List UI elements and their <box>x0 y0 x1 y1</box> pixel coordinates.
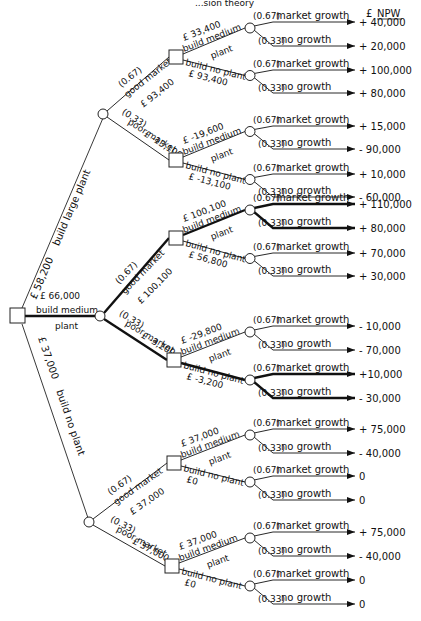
decision-node <box>169 153 183 167</box>
chance-node <box>245 205 255 215</box>
leaf-npw: + 80,000 <box>359 88 406 99</box>
leaf-npw: + 40,000 <box>359 17 406 28</box>
leaf-npw: + 15,000 <box>359 121 406 132</box>
leaf-npw: 0 <box>359 599 365 610</box>
edge-market-growth <box>254 253 355 257</box>
decision-node <box>167 456 181 470</box>
decision-node <box>169 231 183 245</box>
large-plant-label: build large plant <box>50 168 92 248</box>
edge-market-growth <box>254 22 355 26</box>
leaf-npw: + 30,000 <box>359 271 406 282</box>
chance-node-noplant <box>84 517 94 527</box>
leaf-label: market growth <box>276 362 349 373</box>
leaf-label: no growth <box>281 338 331 349</box>
leaf-npw: - 70,000 <box>359 345 401 356</box>
build-medium-label2: plant <box>209 146 234 164</box>
leaf-label: market growth <box>276 58 349 69</box>
build-medium-label2: plant <box>209 43 234 61</box>
chance-node <box>245 71 255 81</box>
edge-market-growth <box>254 532 355 536</box>
leaf-npw: + 110,000 <box>359 199 412 210</box>
edge-market-growth <box>254 374 355 378</box>
leaf-npw: + 75,000 <box>359 527 406 538</box>
edge-market-growth <box>254 70 355 74</box>
chance-node-large <box>98 109 108 119</box>
edge-market-growth <box>254 204 355 208</box>
leaf-label: market growth <box>276 568 349 579</box>
chance-node <box>245 327 255 337</box>
page-title-fragment: ...sion theory <box>195 0 255 8</box>
edge-market-growth <box>254 174 355 178</box>
leaf-label: market growth <box>276 520 349 531</box>
edge-market-growth <box>254 126 355 130</box>
edge-market-growth <box>254 429 355 433</box>
leaf-label: no growth <box>281 386 331 397</box>
chance-node-medium <box>95 311 105 321</box>
leaf-npw: +10,000 <box>359 369 402 380</box>
leaf-npw: + 100,000 <box>359 65 412 76</box>
chance-node <box>245 477 255 487</box>
edge-market-growth <box>254 476 355 480</box>
edge-no-plant <box>22 324 88 518</box>
root-decision-node <box>10 308 25 323</box>
chance-node <box>245 175 255 185</box>
build-medium-label2: plant <box>207 449 232 466</box>
no-plant-ev: £ 37,000 <box>36 335 61 381</box>
leaf-label: no growth <box>281 592 331 603</box>
leaf-npw: + 70,000 <box>359 248 406 259</box>
leaf-npw: - 90,000 <box>359 144 401 155</box>
leaf-label: no growth <box>281 488 331 499</box>
leaf-label: no growth <box>281 34 331 45</box>
edge-market-growth <box>254 326 355 330</box>
medium-plant-label1: build medium <box>36 305 98 315</box>
leaf-label: market growth <box>276 10 349 21</box>
medium-plant-ev: £ 66,000 <box>40 291 80 301</box>
chance-node <box>245 375 255 385</box>
leaf-npw: 0 <box>359 575 365 586</box>
chance-node <box>245 23 255 33</box>
leaf-label: no growth <box>281 264 331 275</box>
edge-market-growth <box>254 580 355 584</box>
build-medium-label2: plant <box>209 224 234 242</box>
leaf-label: market growth <box>276 464 349 475</box>
build-no-plant-ev: £0 <box>186 474 200 487</box>
leaf-npw: 0 <box>359 471 365 482</box>
chance-node <box>245 581 255 591</box>
build-no-plant-ev: £0 <box>184 577 198 590</box>
chance-node <box>245 127 255 137</box>
leaf-label: market growth <box>276 114 349 125</box>
leaf-npw: + 20,000 <box>359 41 406 52</box>
leaf-label: no growth <box>281 544 331 555</box>
leaf-npw: - 40,000 <box>359 551 401 562</box>
chance-node <box>245 430 255 440</box>
leaf-label: market growth <box>276 417 349 428</box>
medium-plant-label2: plant <box>55 321 78 331</box>
leaf-label: no growth <box>281 216 331 227</box>
leaf-label: market growth <box>276 314 349 325</box>
no-plant-label: build no plant <box>54 388 87 457</box>
leaf-npw: - 30,000 <box>359 393 401 404</box>
decision-tree: ...sion theory £ NPW £ 58,200 build larg… <box>0 0 421 621</box>
leaf-npw: - 40,000 <box>359 448 401 459</box>
leaf-label: no growth <box>281 137 331 148</box>
decision-node <box>165 559 179 573</box>
leaf-npw: 0 <box>359 495 365 506</box>
leaf-label: no growth <box>281 441 331 452</box>
decision-node <box>169 50 183 64</box>
leaf-npw: + 10,000 <box>359 169 406 180</box>
leaf-label: no growth <box>281 81 331 92</box>
leaf-npw: + 80,000 <box>359 223 406 234</box>
leaf-npw: - 10,000 <box>359 321 401 332</box>
leaf-label: market growth <box>276 241 349 252</box>
decision-node <box>167 353 181 367</box>
build-medium-label2: plant <box>205 553 230 570</box>
leaf-label: market growth <box>276 162 349 173</box>
leaf-label: market growth <box>276 192 349 203</box>
leaf-npw: + 75,000 <box>359 424 406 435</box>
chance-node <box>245 254 255 264</box>
chance-node <box>245 533 255 543</box>
build-medium-label2: plant <box>207 346 232 363</box>
